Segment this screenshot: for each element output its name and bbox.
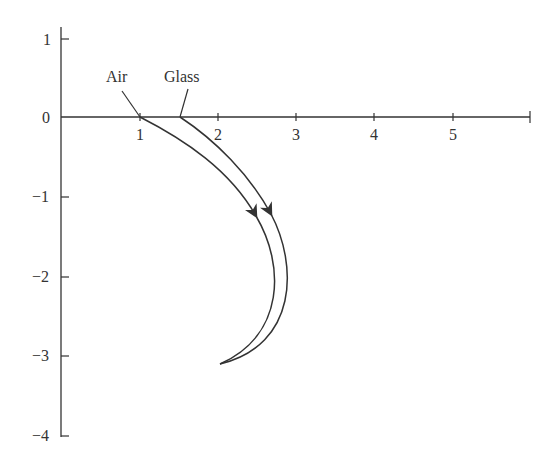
glass-leader-line [180,89,188,117]
y-tick-label-neg2: −2 [32,269,49,285]
x-tick-label-3: 3 [292,127,300,143]
x-tick-label-5: 5 [449,127,457,143]
y-tick-label-0: 0 [42,110,50,126]
glass-label: Glass [164,69,200,85]
air-label: Air [106,69,127,85]
glass-ray-path [180,117,271,214]
air-leader-line [122,91,140,117]
y-tick-label-1: 1 [43,32,51,48]
y-tick-label-neg1: −1 [32,189,49,205]
x-tick-label-4: 4 [370,127,378,143]
y-tick-label-neg4: −4 [32,428,49,444]
air-ray-path-continued [220,216,275,364]
air-ray-path [140,117,256,216]
x-tick-label-2: 2 [214,127,222,143]
glass-ray-path-continued [220,214,287,364]
x-tick-label-1: 1 [136,127,144,143]
y-ticks [61,39,69,436]
diagram-canvas [0,0,557,465]
y-tick-label-neg3: −3 [32,348,49,364]
